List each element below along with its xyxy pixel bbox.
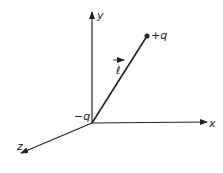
x-axis-label: x xyxy=(208,117,216,130)
x-axis xyxy=(92,122,207,123)
positive-charge-label: +q xyxy=(151,29,167,42)
vector-label: ℓ xyxy=(115,64,121,77)
z-axis xyxy=(21,123,92,153)
positive-charge-dot xyxy=(145,34,150,39)
dipole-diagram: y x z +q −q ℓ xyxy=(0,0,223,173)
z-axis-label: z xyxy=(16,140,23,153)
dipole-vector xyxy=(92,36,147,123)
y-axis-label: y xyxy=(96,9,104,22)
negative-charge-label: −q xyxy=(74,110,90,123)
